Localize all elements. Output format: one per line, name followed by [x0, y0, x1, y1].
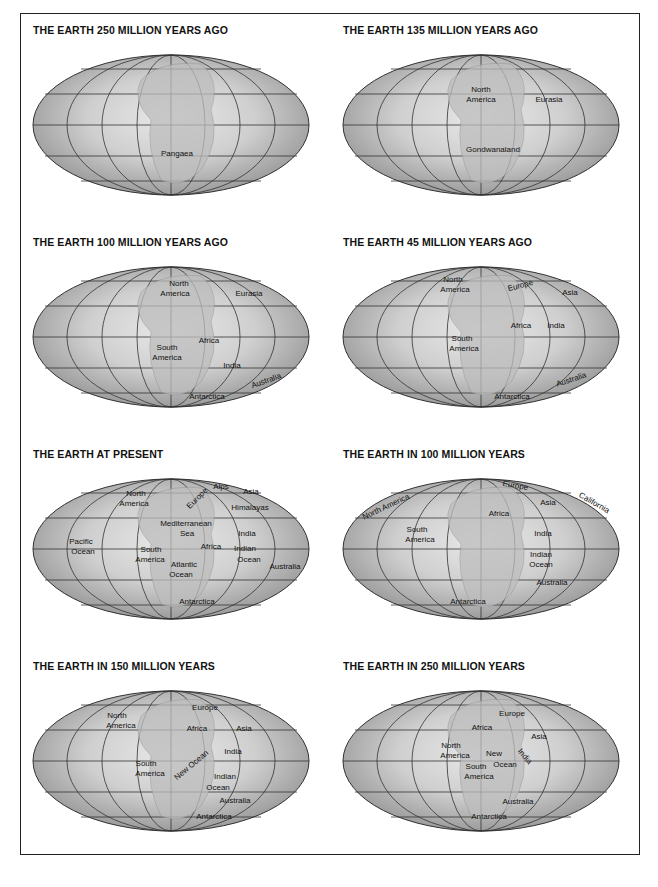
map-label: Antarctica	[471, 812, 507, 821]
map-label: India	[224, 747, 242, 756]
map-label: America	[449, 344, 479, 353]
map-label: Indian	[530, 550, 552, 559]
map-label: South	[136, 759, 157, 768]
map-label: Australia	[536, 578, 568, 587]
map-label: Asia	[562, 288, 578, 297]
map-label: Indian	[234, 544, 256, 553]
map-label: Asia	[531, 732, 547, 741]
map-label: South	[141, 545, 162, 554]
map-label: America	[160, 289, 190, 298]
map-label: America	[464, 772, 494, 781]
map-label: Ocean	[237, 555, 261, 564]
map-label: South	[452, 334, 473, 343]
map-label: Antarctica	[196, 812, 232, 821]
map-label: America	[135, 769, 165, 778]
map-label: Mediterranean	[160, 519, 212, 528]
map-label: Indian	[214, 772, 236, 781]
panel-title: THE EARTH 100 MILLION YEARS AGO	[33, 236, 228, 248]
map-label: Africa	[511, 321, 532, 330]
map-panel-250-mya: THE EARTH 250 MILLION YEARS AGO Pangaea	[21, 14, 321, 219]
map-label: Australia	[219, 796, 251, 805]
panel-title: THE EARTH AT PRESENT	[33, 448, 163, 460]
world-map-mollweide: NorthAmericaEurasiaGondwanaland	[331, 50, 631, 200]
map-label: Gondwanaland	[466, 145, 520, 154]
map-label: America	[135, 555, 165, 564]
panel-title: THE EARTH IN 100 MILLION YEARS	[343, 448, 525, 460]
map-label: India	[534, 529, 552, 538]
map-label: America	[152, 353, 182, 362]
map-label: America	[440, 285, 470, 294]
map-label: North	[441, 741, 461, 750]
panel-title: THE EARTH 135 MILLION YEARS AGO	[343, 24, 538, 36]
map-panel-45-mya: THE EARTH 45 MILLION YEARS AGO NorthAmer…	[331, 226, 631, 431]
map-label: North	[107, 711, 127, 720]
map-label: Africa	[199, 336, 220, 345]
map-label: Australia	[269, 562, 301, 571]
map-label: Asia	[236, 724, 252, 733]
world-map-mollweide: EuropeNorth AmericaCaliforniaAsiaAfricaS…	[331, 474, 631, 624]
map-label: India	[223, 361, 241, 370]
map-label: North	[169, 279, 189, 288]
map-label: Himalayas	[231, 503, 268, 512]
map-label: Ocean	[71, 547, 95, 556]
panel-title: THE EARTH IN 150 MILLION YEARS	[33, 660, 215, 672]
map-label: America	[119, 499, 149, 508]
map-label: Europe	[499, 709, 525, 718]
world-map-mollweide: EuropeNorthAmericaAfricaAsiaIndiaNew Oce…	[21, 686, 321, 836]
map-label: Sea	[180, 529, 195, 538]
map-label: South	[466, 762, 487, 771]
map-label: Antarctica	[179, 597, 215, 606]
panel-title: THE EARTH 45 MILLION YEARS AGO	[343, 236, 532, 248]
map-label: Atlantic	[171, 560, 197, 569]
map-label: Africa	[201, 542, 222, 551]
map-label: India	[238, 529, 256, 538]
panel-title: THE EARTH 250 MILLION YEARS AGO	[33, 24, 228, 36]
map-label: America	[440, 751, 470, 760]
panel-title: THE EARTH IN 250 MILLION YEARS	[343, 660, 525, 672]
world-map-mollweide: Pangaea	[21, 50, 321, 200]
map-label: Asia	[243, 487, 259, 496]
map-label: Eurasia	[235, 289, 263, 298]
map-panel-in-150-my: THE EARTH IN 150 MILLION YEARS EuropeNor…	[21, 650, 321, 855]
map-panel-present: THE EARTH AT PRESENT NorthAmericaEuropeA…	[21, 438, 321, 643]
world-map-mollweide: NorthAmericaEurasiaAfricaSouthAmericaInd…	[21, 262, 321, 412]
map-label: Africa	[472, 723, 493, 732]
world-map-mollweide: NorthAmericaEuropeAsiaAfricaIndiaSouthAm…	[331, 262, 631, 412]
map-label: Antarctica	[450, 597, 486, 606]
map-panel-in-250-my: THE EARTH IN 250 MILLION YEARS EuropeAfr…	[331, 650, 631, 855]
map-label: Asia	[540, 498, 556, 507]
map-label: North	[443, 275, 463, 284]
map-label: America	[466, 95, 496, 104]
map-label: New	[486, 749, 502, 758]
map-label: Eurasia	[535, 95, 563, 104]
map-label: Ocean	[169, 570, 193, 579]
map-label: America	[106, 721, 136, 730]
figure-frame: THE EARTH 250 MILLION YEARS AGO Pangaea …	[20, 13, 640, 855]
map-label: Antarctica	[189, 392, 225, 401]
map-label: Europe	[192, 703, 218, 712]
map-label: North	[126, 489, 146, 498]
map-panel-in-100-my: THE EARTH IN 100 MILLION YEARS EuropeNor…	[331, 438, 631, 643]
map-label: South	[407, 525, 428, 534]
map-label: Pacific	[69, 537, 93, 546]
map-label: America	[405, 535, 435, 544]
map-label: Alps	[213, 482, 229, 491]
map-label: North	[471, 85, 491, 94]
map-label: Antarctica	[494, 392, 530, 401]
world-map-mollweide: EuropeAfricaAsiaNorthAmericaNewIndiaSout…	[331, 686, 631, 836]
map-label: Ocean	[493, 760, 517, 769]
map-label: Ocean	[206, 783, 230, 792]
world-map-mollweide: NorthAmericaEuropeAlpsAsiaHimalayasMedit…	[21, 474, 321, 624]
map-label: Australia	[502, 797, 534, 806]
map-label: Pangaea	[161, 149, 194, 158]
map-label: South	[157, 343, 178, 352]
map-panel-135-mya: THE EARTH 135 MILLION YEARS AGO NorthAme…	[331, 14, 631, 219]
map-label: India	[547, 321, 565, 330]
map-label: Africa	[187, 724, 208, 733]
map-label: Ocean	[529, 560, 553, 569]
map-label: Africa	[489, 509, 510, 518]
map-panel-100-mya: THE EARTH 100 MILLION YEARS AGO NorthAme…	[21, 226, 321, 431]
